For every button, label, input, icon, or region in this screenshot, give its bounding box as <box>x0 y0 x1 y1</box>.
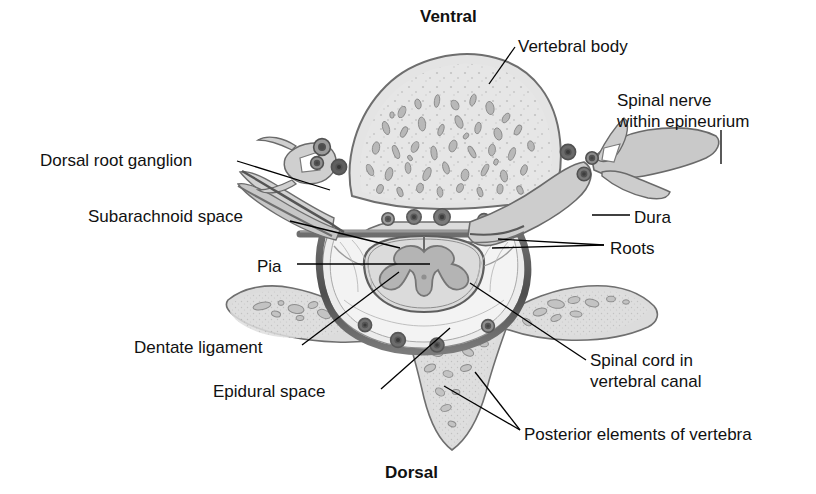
label-roots: Roots <box>610 238 654 259</box>
label-spinal-cord: Spinal cord in vertebral canal <box>590 350 702 392</box>
label-epidural: Epidural space <box>213 381 325 402</box>
ganglion-branch-upper <box>258 137 296 150</box>
label-drg: Dorsal root ganglion <box>40 150 192 171</box>
label-dorsal: Dorsal <box>385 462 438 483</box>
figure-canvas: VentralVertebral bodySpinal nerve within… <box>0 0 816 494</box>
label-dentate: Dentate ligament <box>134 337 263 358</box>
label-subarachnoid: Subarachnoid space <box>88 206 243 227</box>
label-posterior: Posterior elements of vertebra <box>524 424 752 445</box>
central-canal <box>421 274 426 279</box>
label-vertebral-body: Vertebral body <box>518 36 628 57</box>
anatomy-illustration <box>0 0 816 494</box>
vertebral-body <box>350 54 561 209</box>
spinal-cord <box>364 236 484 312</box>
label-ventral: Ventral <box>420 6 477 27</box>
label-pia: Pia <box>257 256 282 277</box>
label-dura: Dura <box>634 207 671 228</box>
label-spinal-nerve: Spinal nerve within epineurium <box>617 90 749 132</box>
